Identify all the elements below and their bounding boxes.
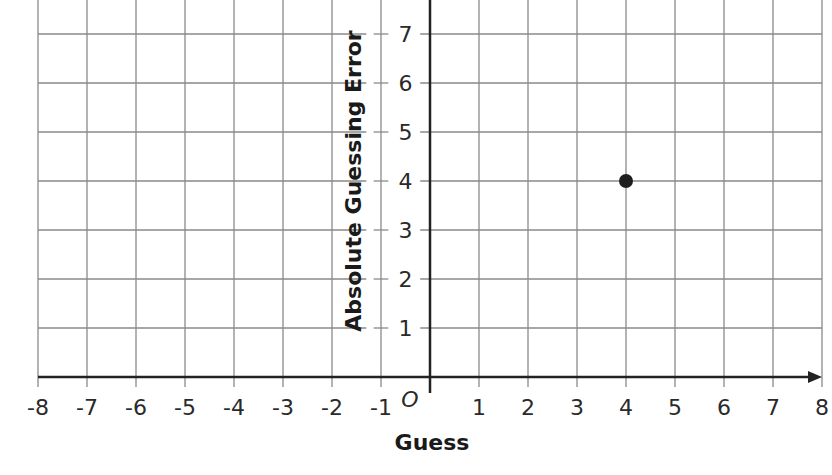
x-tick-label: -4 [223,395,245,420]
x-axis-tick-labels: -8-7-6-5-4-3-2-112345678 [27,395,829,420]
y-axis-tick-labels: 1234567 [399,22,413,341]
x-tick-label: -8 [27,395,49,420]
y-tick-label: 3 [399,218,413,243]
y-axis-title: Absolute Guessing Error [341,30,366,332]
x-tick-label: -7 [76,395,98,420]
x-tick-label: 3 [570,395,584,420]
y-tick-label: 4 [399,169,413,194]
y-tick-label: 1 [399,316,413,341]
x-tick-label: -5 [174,395,196,420]
data-points [619,174,633,188]
x-tick-label: 5 [668,395,682,420]
x-tick-label: -1 [370,395,392,420]
x-axis-arrow-icon [808,371,822,383]
x-tick-label: 7 [766,395,780,420]
data-point [619,174,633,188]
x-tick-label: 2 [521,395,535,420]
y-tick-label: 6 [399,71,413,96]
x-axis-title: Guess [395,430,470,455]
y-tick-label: 5 [399,120,413,145]
x-tick-label: -3 [272,395,294,420]
y-tick-label: 7 [399,22,413,47]
x-tick-label: 4 [619,395,633,420]
origin-label: O [401,387,418,412]
x-tick-label: -2 [321,395,343,420]
coordinate-plane: -8-7-6-5-4-3-2-112345678 1234567 O Guess… [0,0,832,475]
axes [38,0,822,393]
y-tick-label: 2 [399,267,413,292]
x-tick-label: 8 [815,395,829,420]
x-tick-label: 6 [717,395,731,420]
x-tick-label: -6 [125,395,147,420]
x-tick-label: 1 [472,395,486,420]
